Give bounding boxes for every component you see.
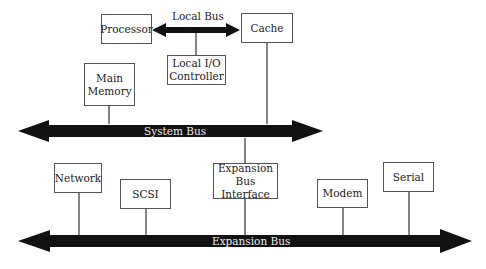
cache-box: Cache [241,13,293,43]
cache-label: Cache [250,22,283,35]
local-io-label-1: Local I/O [172,57,220,70]
network-label: Network [55,172,101,185]
main-memory-label-2: Memory [87,85,131,98]
expansion-bus-label: Expansion Bus [212,235,290,247]
local-bus-label: Local Bus [172,10,224,22]
bus-architecture-diagram: Local Bus Processor Cache Local I/O Cont… [0,0,486,269]
network-box: Network [54,163,102,193]
local-io-controller-box: Local I/O Controller [167,55,226,85]
processor-label: Processor [100,23,153,36]
modem-box: Modem [317,179,368,208]
processor-box: Processor [101,14,152,44]
expansion-interface-label-1: Expansion [218,162,273,175]
main-memory-label-1: Main [96,72,123,85]
local-io-label-2: Controller [169,70,224,83]
scsi-label: SCSI [132,188,159,201]
serial-box: Serial [383,162,434,192]
scsi-box: SCSI [120,179,171,209]
modem-label: Modem [323,187,363,200]
system-bus-label: System Bus [144,125,206,137]
main-memory-box: Main Memory [84,63,135,106]
serial-label: Serial [393,171,424,184]
expansion-bus-interface-box: Expansion Bus Interface [213,163,278,199]
expansion-interface-label-2: Bus Interface [214,175,277,201]
